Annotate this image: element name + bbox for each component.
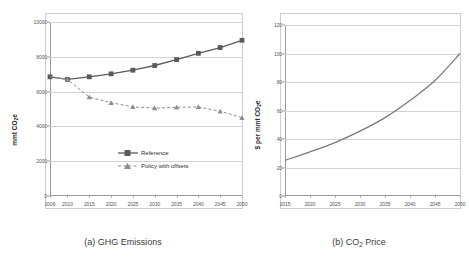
- x-tick-label: 2025: [128, 201, 139, 207]
- data-point-marker: [131, 68, 136, 73]
- x-tick-mark: [385, 196, 386, 198]
- series-line-0: [285, 54, 460, 161]
- legend-item-reference: Reference: [118, 146, 189, 159]
- caption-b-formula-sub: 2: [359, 241, 363, 248]
- data-point-marker: [87, 74, 92, 79]
- x-tick-mark: [335, 196, 336, 198]
- x-tick-mark: [111, 196, 112, 198]
- y-tick-label: 0: [44, 193, 47, 199]
- y-axis-title-a: mmt CO2e: [11, 114, 18, 146]
- y-tick-label: 10000: [34, 19, 47, 25]
- x-tick-label: 2020: [305, 201, 316, 207]
- x-tick-mark: [285, 196, 286, 198]
- x-tick-label: 2035: [380, 201, 391, 207]
- x-tick-label: 2045: [215, 201, 226, 207]
- data-point-marker: [152, 63, 157, 68]
- x-tick-label: 2030: [355, 201, 366, 207]
- x-tick-mark: [133, 196, 134, 198]
- y-tick-label: 2000: [36, 158, 47, 164]
- y-tick-label: 80: [277, 79, 282, 85]
- y-axis-title-b-tail: e: [254, 100, 261, 104]
- x-tick-mark: [242, 196, 243, 198]
- x-tick-label: 2006: [45, 201, 56, 207]
- x-tick-mark: [67, 196, 68, 198]
- legend-item-policy: Policy with offsets: [118, 159, 189, 172]
- data-point-marker: [196, 104, 201, 109]
- data-point-marker: [218, 109, 223, 114]
- series-layer-b: [285, 25, 460, 196]
- legend-swatch-policy: [118, 161, 138, 171]
- x-tick-label: 2040: [193, 201, 204, 207]
- y-axis-title-b-main: $ per mmt CO: [254, 107, 261, 150]
- series-line-0: [50, 40, 242, 79]
- y-tick-label: 60: [277, 108, 282, 114]
- legend-label-reference: Reference: [141, 150, 169, 156]
- y-tick-label: 0: [279, 193, 282, 199]
- data-point-marker: [108, 100, 113, 105]
- x-tick-mark: [435, 196, 436, 198]
- y-tick-label: 4000: [36, 123, 47, 129]
- x-tick-mark: [50, 196, 51, 198]
- caption-b-formula: CO2: [346, 237, 363, 247]
- x-tick-mark: [177, 196, 178, 198]
- x-tick-label: 2015: [280, 201, 291, 207]
- data-point-marker: [109, 71, 114, 76]
- y-tick-label: 120: [274, 22, 282, 28]
- data-point-marker: [240, 38, 245, 43]
- y-tick-label: 8000: [36, 54, 47, 60]
- x-tick-mark: [460, 196, 461, 198]
- x-tick-label: 2035: [171, 201, 182, 207]
- caption-a-text: GHG Emissions: [98, 237, 162, 247]
- data-point-marker: [174, 57, 179, 62]
- caption-b-formula-main: CO: [346, 237, 360, 247]
- panel-co2-price: $ per mmt CO2e 020406080100120 201520202…: [249, 0, 469, 260]
- data-point-marker: [196, 51, 201, 56]
- x-tick-label: 2040: [405, 201, 416, 207]
- x-tick-label: 2050: [455, 201, 466, 207]
- legend-swatch-reference: [118, 148, 138, 158]
- x-tick-mark: [155, 196, 156, 198]
- x-tick-label: 2045: [430, 201, 441, 207]
- x-tick-mark: [220, 196, 221, 198]
- x-tick-mark: [89, 196, 90, 198]
- y-axis-title-a-main: mmt CO: [11, 121, 18, 146]
- series-line-1: [50, 77, 242, 118]
- caption-b-prefix: (b): [332, 237, 343, 247]
- caption-a-prefix: (a): [84, 237, 95, 247]
- plot-area-b: 020406080100120 201520202025203020352040…: [285, 25, 460, 196]
- y-axis-title-b-sub: 2: [257, 104, 262, 107]
- data-point-marker: [218, 45, 223, 50]
- x-tick-mark: [198, 196, 199, 198]
- y-tick-label: 100: [274, 51, 282, 57]
- x-tick-label: 2050: [237, 201, 248, 207]
- x-tick-label: 2025: [330, 201, 341, 207]
- x-tick-label: 2015: [84, 201, 95, 207]
- panel-ghg-emissions: mmt CO2e 0200040006000800010000 20062010…: [0, 0, 246, 260]
- y-axis-title-b: $ per mmt CO2e: [254, 100, 261, 149]
- x-tick-label: 2010: [62, 201, 73, 207]
- figure-container: mmt CO2e 0200040006000800010000 20062010…: [0, 0, 469, 260]
- legend-label-policy: Policy with offsets: [141, 163, 189, 169]
- x-tick-label: 2020: [106, 201, 117, 207]
- y-tick-label: 6000: [36, 89, 47, 95]
- x-tick-mark: [310, 196, 311, 198]
- x-tick-mark: [410, 196, 411, 198]
- caption-a: (a) GHG Emissions: [0, 237, 246, 247]
- caption-b-text: Price: [365, 237, 386, 247]
- y-axis-title-a-sub: 2: [14, 118, 19, 121]
- y-tick-label: 40: [277, 136, 282, 142]
- x-tick-label: 2030: [149, 201, 160, 207]
- legend-a: Reference Policy with offsets: [118, 146, 189, 172]
- caption-b: (b) CO2 Price: [249, 237, 469, 247]
- y-tick-label: 20: [277, 165, 282, 171]
- x-tick-mark: [360, 196, 361, 198]
